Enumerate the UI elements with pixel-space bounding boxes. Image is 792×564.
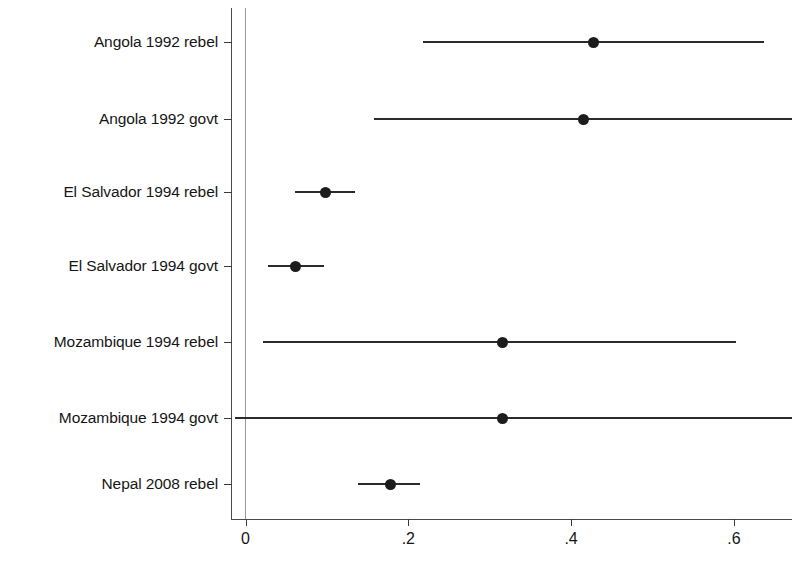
y-axis-tick [224,119,232,120]
y-axis-tick [224,192,232,193]
point-estimate-marker [497,337,508,348]
y-axis-tick [224,418,232,419]
y-axis-tick [224,266,232,267]
forest-plot-figure: Angola 1992 rebelAngola 1992 govtEl Salv… [0,0,792,564]
point-estimate-marker [578,114,589,125]
y-axis-tick [224,484,232,485]
y-axis-label: Mozambique 1994 govt [59,410,218,426]
x-axis-tick-label: .6 [727,531,740,547]
plot-area: Angola 1992 rebelAngola 1992 govtEl Salv… [0,0,792,564]
x-axis-line [231,519,792,520]
point-estimate-marker [385,479,396,490]
x-axis-tick-label: .2 [402,531,415,547]
y-axis-tick [224,42,232,43]
zero-reference-line [245,8,246,519]
confidence-interval-line [235,417,792,419]
point-estimate-marker [588,37,599,48]
x-axis-tick [571,519,572,526]
point-estimate-marker [497,413,508,424]
x-axis-tick [734,519,735,526]
x-axis-tick [246,519,247,526]
point-estimate-marker [290,261,301,272]
y-axis-label: El Salvador 1994 govt [68,258,218,274]
y-axis-label: Angola 1992 govt [99,111,218,127]
x-axis-tick-label: 0 [241,531,250,547]
y-axis-tick [224,342,232,343]
y-axis-label: Nepal 2008 rebel [102,476,218,492]
y-axis-label: El Salvador 1994 rebel [63,184,218,200]
x-axis-tick [408,519,409,526]
x-axis-tick-label: .4 [564,531,577,547]
point-estimate-marker [320,187,331,198]
y-axis-line [231,8,232,520]
y-axis-label: Mozambique 1994 rebel [54,334,218,350]
y-axis-label: Angola 1992 rebel [94,34,218,50]
